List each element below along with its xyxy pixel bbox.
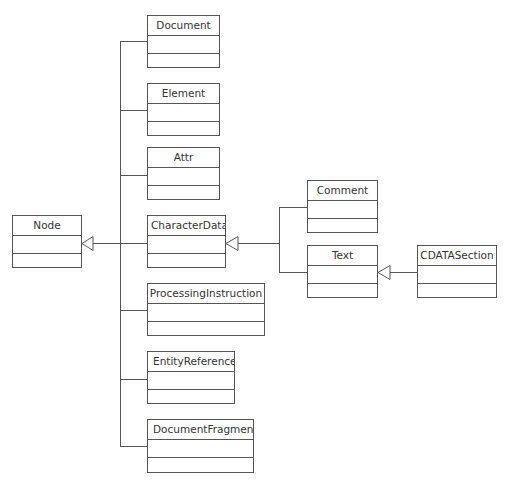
class-cdatasection: CDATASection (417, 245, 497, 298)
attributes-compartment (13, 236, 81, 254)
class-name: DocumentFragment (148, 420, 253, 440)
class-entityreference: EntityReference (147, 351, 235, 404)
class-name: Node (13, 216, 81, 236)
class-element: Element (147, 83, 220, 136)
class-characterdata: CharacterData (147, 215, 226, 268)
class-processinginstruction: ProcessingInstruction (147, 283, 265, 336)
attributes-compartment (148, 104, 219, 122)
attributes-compartment (308, 201, 377, 219)
class-name: EntityReference (148, 352, 234, 372)
class-name: Comment (308, 181, 377, 201)
inheritance-arrow-node (82, 237, 93, 251)
class-documentfragment: DocumentFragment (147, 419, 254, 473)
operations-compartment (148, 390, 234, 405)
class-name: CharacterData (148, 216, 225, 236)
operations-compartment (148, 54, 219, 69)
attributes-compartment (148, 372, 234, 390)
operations-compartment (148, 186, 219, 201)
attributes-compartment (148, 304, 264, 322)
inheritance-arrow-characterdata (226, 237, 238, 251)
operations-compartment (13, 254, 81, 269)
class-name: Attr (148, 148, 219, 168)
class-name: Document (148, 16, 219, 36)
class-attr: Attr (147, 147, 220, 200)
attributes-compartment (148, 440, 253, 458)
operations-compartment (148, 322, 264, 337)
class-node: Node (12, 215, 82, 268)
attributes-compartment (148, 236, 225, 254)
operations-compartment (308, 219, 377, 234)
uml-class-diagram: Node Document Element Attr CharacterData… (0, 0, 510, 482)
class-name: ProcessingInstruction (148, 284, 264, 304)
operations-compartment (148, 254, 225, 269)
class-name: CDATASection (418, 246, 496, 266)
operations-compartment (418, 284, 496, 299)
operations-compartment (308, 284, 377, 299)
attributes-compartment (148, 168, 219, 186)
attributes-compartment (418, 266, 496, 284)
class-name: Text (308, 246, 377, 266)
attributes-compartment (308, 266, 377, 284)
inheritance-arrow-text (378, 266, 390, 280)
attributes-compartment (148, 36, 219, 54)
class-text: Text (307, 245, 378, 298)
class-name: Element (148, 84, 219, 104)
operations-compartment (148, 122, 219, 137)
class-document: Document (147, 15, 220, 68)
class-comment: Comment (307, 180, 378, 233)
operations-compartment (148, 458, 253, 473)
